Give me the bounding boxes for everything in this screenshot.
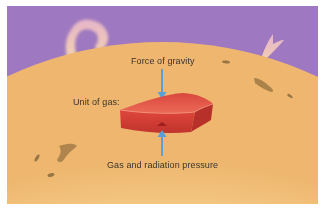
unit-of-gas-label: Unit of gas: (73, 97, 120, 107)
gravity-label: Force of gravity (131, 56, 195, 66)
diagram-frame: Force of gravity Unit of gas: Gas and ra… (7, 6, 318, 204)
sun-diagram-svg (7, 6, 318, 204)
pressure-label: Gas and radiation pressure (107, 160, 218, 170)
